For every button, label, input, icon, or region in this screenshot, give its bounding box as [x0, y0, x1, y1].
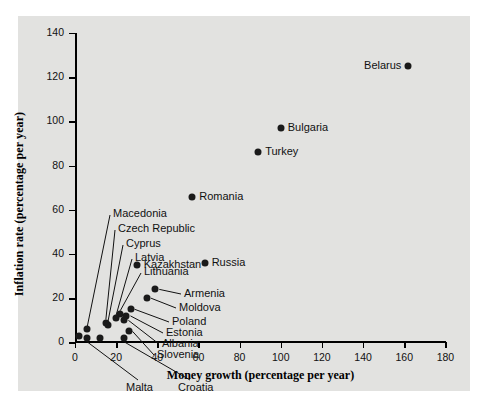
y-tick [69, 121, 75, 122]
point-label-croatia: Croatia [178, 381, 213, 393]
data-point-czech-republic [102, 319, 109, 326]
point-label-bulgaria: Bulgaria [288, 121, 328, 133]
y-tick-label: 40 [38, 247, 64, 259]
data-point-moldova [144, 295, 151, 302]
y-tick [69, 166, 75, 167]
data-point-malta [84, 334, 91, 341]
data-point-croatia [121, 334, 128, 341]
x-tick-label: 0 [60, 351, 90, 363]
x-tick [363, 342, 364, 348]
x-tick-label: 160 [389, 351, 419, 363]
point-label-slovenia: Slovenia [157, 348, 199, 360]
y-tick-label: 80 [38, 159, 64, 171]
point-label-lithuania: Lithuania [144, 265, 189, 277]
point-label-belarus: Belarus [364, 59, 401, 71]
data-point-latvia [113, 315, 120, 322]
data-point-slovenia [125, 328, 132, 335]
point-label-macedonia: Macedonia [113, 207, 167, 219]
x-tick-label: 180 [430, 351, 460, 363]
y-axis-spine [75, 33, 77, 343]
data-point-belarus [405, 63, 412, 70]
y-tick-label: 120 [38, 70, 64, 82]
figure-panel: Inflation rate (percentage per year) Mon… [18, 16, 470, 391]
x-tick [445, 342, 446, 348]
data-point-macedonia [84, 326, 91, 333]
data-point-bulgaria [277, 125, 284, 132]
y-tick-label: 0 [38, 335, 64, 347]
y-tick-label: 140 [38, 26, 64, 38]
point-label-russia: Russia [212, 256, 246, 268]
point-label-cyprus: Cyprus [126, 237, 161, 249]
point-label-romania: Romania [199, 190, 243, 202]
data-point-armenia [152, 286, 159, 293]
data-point-unlabeled-2 [96, 334, 103, 341]
y-tick-label: 60 [38, 203, 64, 215]
y-tick [69, 33, 75, 34]
x-tick [281, 342, 282, 348]
x-tick-label: 140 [348, 351, 378, 363]
point-label-armenia: Armenia [184, 287, 225, 299]
data-point-poland [127, 306, 134, 313]
y-tick [69, 254, 75, 255]
data-point-turkey [255, 149, 262, 156]
point-label-czech-republic: Czech Republic [118, 222, 195, 234]
y-tick-label: 20 [38, 291, 64, 303]
y-tick [69, 298, 75, 299]
y-tick-label: 100 [38, 114, 64, 126]
x-axis-spine [75, 341, 446, 343]
x-tick [75, 342, 76, 348]
x-tick [116, 342, 117, 348]
y-tick [69, 210, 75, 211]
data-point-albania [121, 317, 128, 324]
data-point-russia [201, 259, 208, 266]
y-axis-title: Inflation rate (percentage per year) [12, 112, 27, 296]
point-label-malta: Malta [126, 381, 153, 393]
x-tick-label: 100 [266, 351, 296, 363]
data-point-romania [189, 193, 196, 200]
y-tick [69, 77, 75, 78]
point-label-latvia: Latvia [135, 251, 164, 263]
x-tick [240, 342, 241, 348]
x-tick-label: 20 [101, 351, 131, 363]
x-tick [404, 342, 405, 348]
point-label-moldova: Moldova [179, 301, 221, 313]
x-tick-label: 120 [307, 351, 337, 363]
data-point-unlabeled-1 [76, 332, 83, 339]
x-tick-label: 80 [225, 351, 255, 363]
point-label-turkey: Turkey [265, 145, 298, 157]
x-tick [322, 342, 323, 348]
